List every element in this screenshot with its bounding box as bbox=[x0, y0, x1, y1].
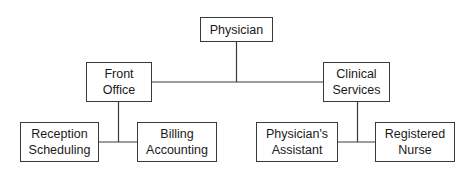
node-label-line2: Nurse bbox=[398, 142, 431, 158]
node-label-line1: Front bbox=[104, 66, 133, 82]
node-label-line2: Scheduling bbox=[29, 142, 91, 158]
node-billing-accounting: Billing Accounting bbox=[137, 122, 217, 162]
node-label-line1: Reception bbox=[31, 126, 87, 142]
node-label-line2: Office bbox=[103, 82, 135, 98]
node-label-line2: Accounting bbox=[146, 142, 208, 158]
node-label-line1: Registered bbox=[385, 126, 445, 142]
org-chart: Physician Front Office Clinical Services… bbox=[0, 0, 471, 173]
node-reception-scheduling: Reception Scheduling bbox=[20, 122, 99, 162]
node-registered-nurse: Registered Nurse bbox=[375, 122, 455, 162]
node-front-office: Front Office bbox=[86, 62, 152, 102]
node-clinical-services: Clinical Services bbox=[323, 62, 390, 102]
node-label-line2: Assistant bbox=[272, 142, 323, 158]
node-label-line2: Services bbox=[333, 82, 381, 98]
node-label-line1: Billing bbox=[160, 126, 193, 142]
node-label-line1: Physician's bbox=[266, 126, 328, 142]
node-physicians-assistant: Physician's Assistant bbox=[256, 122, 338, 162]
node-label: Physician bbox=[210, 22, 264, 38]
node-physician: Physician bbox=[200, 17, 273, 42]
node-label-line1: Clinical bbox=[336, 66, 376, 82]
